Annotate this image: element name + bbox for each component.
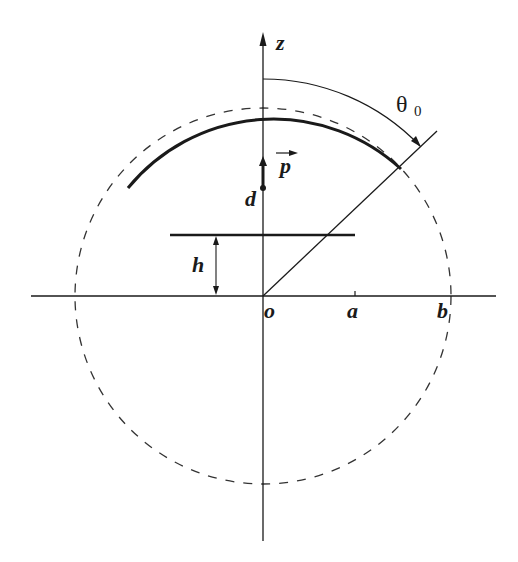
label-d: d — [245, 186, 257, 211]
label-theta-subscript: 0 — [414, 103, 422, 119]
dipole-point — [260, 185, 266, 191]
label-a: a — [347, 298, 358, 323]
theta0-arrow-icon — [411, 136, 421, 147]
diagram-canvas: z p d h o a b θ 0 — [0, 0, 518, 562]
label-theta: θ — [396, 91, 408, 117]
h-arrow-down-icon — [213, 286, 219, 295]
label-o: o — [264, 298, 275, 323]
z-axis-arrow-icon — [260, 32, 267, 46]
label-p: p — [278, 153, 291, 178]
h-arrow-up-icon — [213, 236, 219, 245]
dipole-arrow-icon — [259, 156, 267, 166]
label-b: b — [437, 298, 448, 323]
label-h: h — [192, 252, 204, 277]
label-z: z — [275, 30, 285, 55]
